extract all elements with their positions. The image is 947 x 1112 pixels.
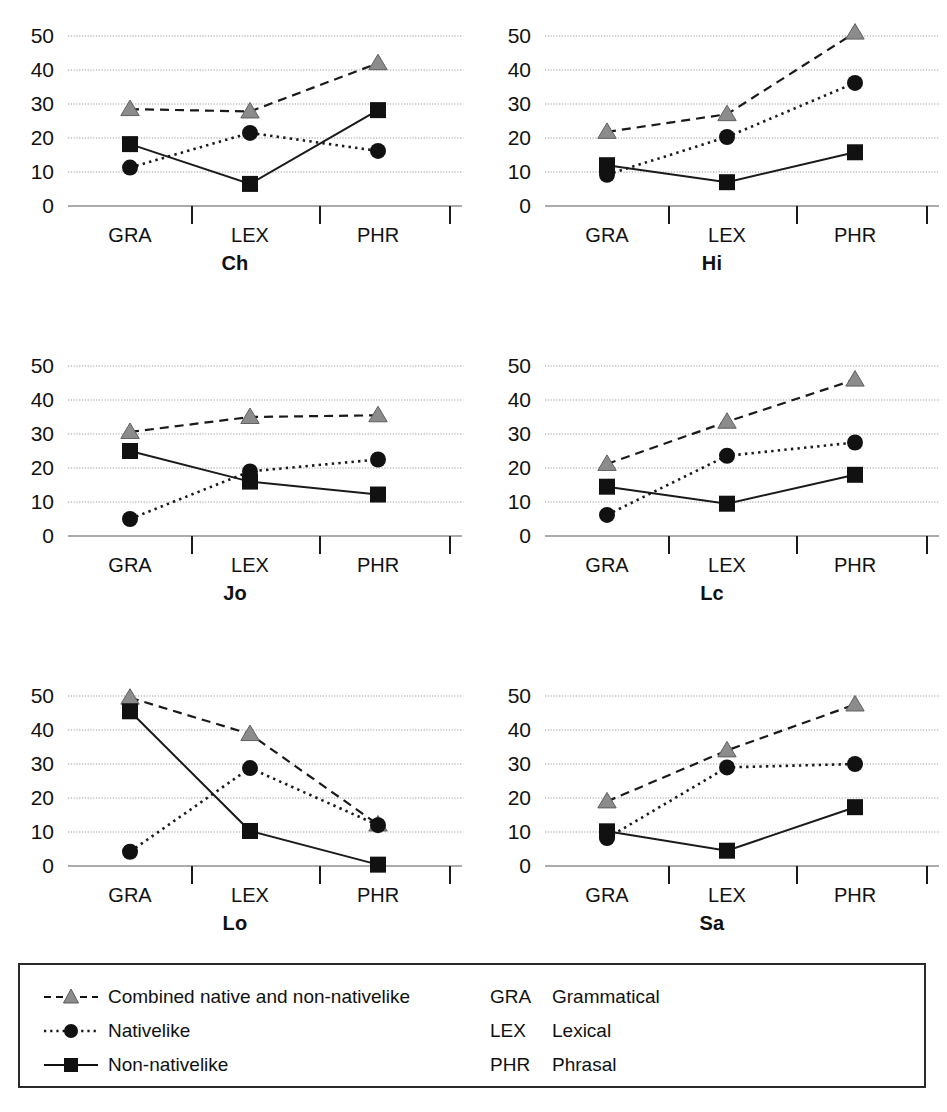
chart-panel-1: 01020304050GRALEXPHR Hi bbox=[477, 0, 947, 316]
plot-area-1: 01020304050GRALEXPHR bbox=[477, 0, 947, 250]
y-axis-tick-label: 30 bbox=[508, 752, 531, 775]
plot-area-2: 01020304050GRALEXPHR bbox=[0, 330, 470, 580]
triangle-marker bbox=[241, 408, 259, 423]
square-marker bbox=[370, 487, 386, 503]
y-axis-tick-label: 10 bbox=[31, 490, 54, 513]
y-axis-tick-label: 20 bbox=[508, 456, 531, 479]
square-marker bbox=[242, 176, 258, 192]
legend-label-combined: Combined native and non-nativelike bbox=[100, 986, 410, 1008]
y-axis-tick-label: 10 bbox=[508, 160, 531, 183]
square-marker bbox=[599, 157, 615, 173]
y-axis-tick-label: 0 bbox=[519, 524, 531, 547]
y-axis-tick-label: 10 bbox=[508, 820, 531, 843]
y-axis-tick-label: 50 bbox=[508, 684, 531, 707]
panel-title-1: Hi bbox=[477, 252, 947, 275]
square-marker bbox=[122, 443, 138, 459]
circle-marker bbox=[847, 435, 863, 451]
x-axis-category-label: PHR bbox=[357, 224, 399, 246]
y-axis-tick-label: 20 bbox=[508, 786, 531, 809]
triangle-marker-icon bbox=[42, 984, 100, 1010]
x-axis-category-label: LEX bbox=[708, 224, 746, 246]
series-line bbox=[130, 768, 378, 852]
circle-marker bbox=[370, 452, 386, 468]
series-line bbox=[607, 764, 855, 838]
y-axis-tick-label: 0 bbox=[519, 194, 531, 217]
chart-panel-2: 01020304050GRALEXPHR Jo bbox=[0, 330, 470, 646]
square-marker bbox=[122, 703, 138, 719]
y-axis-tick-label: 30 bbox=[508, 422, 531, 445]
legend-label-non-nativelike: Non-nativelike bbox=[100, 1054, 228, 1076]
square-marker bbox=[847, 467, 863, 483]
square-marker bbox=[370, 857, 386, 873]
square-marker bbox=[847, 144, 863, 160]
series-line bbox=[130, 110, 378, 184]
x-axis-category-label: LEX bbox=[231, 884, 269, 906]
x-axis-category-label: GRA bbox=[108, 884, 152, 906]
legend-series-list: Combined native and non-nativelike Nativ… bbox=[42, 981, 472, 1083]
triangle-marker bbox=[369, 54, 387, 69]
y-axis-tick-label: 50 bbox=[31, 684, 54, 707]
triangle-marker bbox=[846, 696, 864, 711]
abbr-item-gra: GRA Grammatical bbox=[490, 981, 890, 1013]
y-axis-tick-label: 40 bbox=[31, 388, 54, 411]
y-axis-tick-label: 50 bbox=[31, 24, 54, 47]
circle-marker-icon bbox=[42, 1018, 100, 1044]
square-marker bbox=[122, 136, 138, 152]
y-axis-tick-label: 40 bbox=[508, 58, 531, 81]
legend-label-nativelike: Nativelike bbox=[100, 1020, 190, 1042]
square-marker bbox=[242, 474, 258, 490]
x-axis-category-label: PHR bbox=[834, 554, 876, 576]
y-axis-tick-label: 50 bbox=[508, 24, 531, 47]
legend-item-combined: Combined native and non-nativelike bbox=[42, 981, 472, 1013]
triangle-marker bbox=[718, 105, 736, 120]
y-axis-tick-label: 50 bbox=[31, 354, 54, 377]
y-axis-tick-label: 40 bbox=[31, 58, 54, 81]
chart-panel-3: 01020304050GRALEXPHR Lc bbox=[477, 330, 947, 646]
chart-panel-4: 01020304050GRALEXPHR Lo bbox=[0, 660, 470, 976]
triangle-marker bbox=[846, 371, 864, 386]
x-axis-category-label: PHR bbox=[357, 884, 399, 906]
y-axis-tick-label: 30 bbox=[508, 92, 531, 115]
y-axis-tick-label: 50 bbox=[508, 354, 531, 377]
y-axis-tick-label: 0 bbox=[42, 524, 54, 547]
abbr-key-phr: PHR bbox=[490, 1054, 552, 1076]
x-axis-category-label: PHR bbox=[357, 554, 399, 576]
circle-marker bbox=[122, 511, 138, 527]
x-axis-category-label: GRA bbox=[585, 554, 629, 576]
circle-marker bbox=[847, 756, 863, 772]
square-marker-icon bbox=[42, 1052, 100, 1078]
y-axis-tick-label: 30 bbox=[31, 422, 54, 445]
square-marker bbox=[719, 843, 735, 859]
square-marker bbox=[242, 823, 258, 839]
circle-marker bbox=[122, 160, 138, 176]
triangle-marker bbox=[846, 24, 864, 39]
circle-marker bbox=[370, 817, 386, 833]
y-axis-tick-label: 0 bbox=[42, 194, 54, 217]
x-axis-category-label: GRA bbox=[108, 554, 152, 576]
panel-title-4: Lo bbox=[0, 912, 470, 935]
circle-marker bbox=[122, 844, 138, 860]
multi-panel-line-chart-figure: 01020304050GRALEXPHR Ch 01020304050GRALE… bbox=[0, 0, 947, 1112]
legend-item-nativelike: Nativelike bbox=[42, 1015, 472, 1047]
panel-title-3: Lc bbox=[477, 582, 947, 605]
y-axis-tick-label: 40 bbox=[508, 718, 531, 741]
series-line bbox=[130, 698, 378, 825]
y-axis-tick-label: 10 bbox=[31, 820, 54, 843]
y-axis-tick-label: 20 bbox=[31, 456, 54, 479]
x-axis-category-label: LEX bbox=[231, 554, 269, 576]
square-marker bbox=[719, 174, 735, 190]
legend-item-non-nativelike: Non-nativelike bbox=[42, 1049, 472, 1081]
square-marker bbox=[599, 823, 615, 839]
plot-area-3: 01020304050GRALEXPHR bbox=[477, 330, 947, 580]
triangle-marker bbox=[718, 413, 736, 428]
x-axis-category-label: GRA bbox=[585, 224, 629, 246]
circle-marker bbox=[242, 760, 258, 776]
panel-grid: 01020304050GRALEXPHR Ch 01020304050GRALE… bbox=[0, 0, 947, 950]
plot-area-0: 01020304050GRALEXPHR bbox=[0, 0, 470, 250]
y-axis-tick-label: 40 bbox=[508, 388, 531, 411]
x-axis-category-label: PHR bbox=[834, 224, 876, 246]
y-axis-tick-label: 20 bbox=[31, 126, 54, 149]
plot-area-5: 01020304050GRALEXPHR bbox=[477, 660, 947, 910]
legend-abbreviation-list: GRA Grammatical LEX Lexical PHR Phrasal bbox=[490, 981, 890, 1083]
triangle-marker bbox=[121, 689, 139, 704]
